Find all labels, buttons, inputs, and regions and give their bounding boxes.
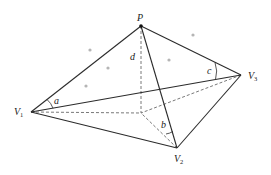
edge-p-v3 — [141, 26, 241, 75]
label-p: P — [136, 12, 143, 23]
v3-foot-line — [141, 75, 241, 113]
label-v1: V1 — [14, 106, 23, 118]
label-v2: V2 — [174, 153, 183, 165]
edge-v2-v3 — [177, 75, 241, 148]
angle-c-arc — [215, 63, 217, 80]
label-c: c — [207, 65, 212, 76]
label-v3: V3 — [248, 70, 257, 82]
v1-foot-line — [31, 112, 141, 113]
dot — [167, 58, 170, 61]
edge-p-v1 — [31, 26, 141, 112]
label-d: d — [130, 51, 136, 62]
dot — [106, 66, 109, 69]
dot — [84, 84, 87, 87]
tetrahedron-diagram: P d a b c V1 V2 V3 — [0, 0, 271, 175]
edge-v1-v3 — [31, 75, 241, 112]
angle-arcs — [47, 63, 217, 135]
label-v3-sub: 3 — [254, 75, 257, 82]
point-p-marker — [139, 24, 143, 28]
label-v2-sub: 2 — [180, 158, 183, 165]
edge-v1-v2 — [31, 112, 177, 148]
scatter-dots — [84, 33, 194, 87]
dot — [191, 33, 194, 36]
angle-a-arc — [47, 100, 53, 109]
solid-edges — [31, 26, 241, 148]
label-a: a — [54, 95, 59, 106]
dot — [88, 48, 91, 51]
label-v1-sub: 1 — [20, 111, 23, 118]
label-b: b — [161, 119, 166, 130]
